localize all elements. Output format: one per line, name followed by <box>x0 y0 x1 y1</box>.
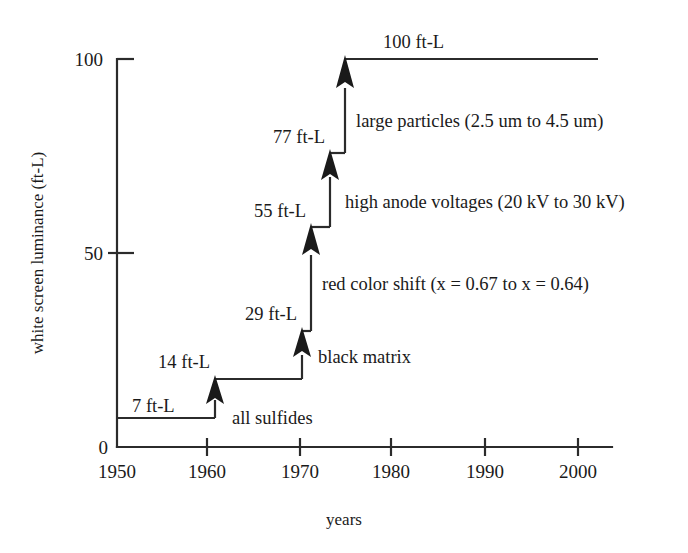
step-value-label-77: 77 ft-L <box>273 127 325 147</box>
x-tick-label-1970: 1970 <box>281 461 319 482</box>
step-value-label-29: 29 ft-L <box>245 304 297 324</box>
y-tick-label-0: 0 <box>99 437 109 458</box>
chart-figure: 100 50 0 1950 1960 1970 1980 1990 2000 <box>0 0 688 553</box>
step-value-label-55: 55 ft-L <box>254 201 306 221</box>
annotation-black-matrix: black matrix <box>318 347 412 367</box>
step-chart-svg: 100 50 0 1950 1960 1970 1980 1990 2000 <box>0 0 688 553</box>
annotation-red-color-shift: red color shift (x = 0.67 to x = 0.64) <box>322 274 589 295</box>
annotation-all-sulfides: all sulfides <box>232 408 313 428</box>
x-axis-title: years <box>326 510 362 529</box>
annotation-high-anode-voltages: high anode voltages (20 kV to 30 kV) <box>345 192 625 213</box>
step-value-label-14: 14 ft-L <box>158 352 210 372</box>
x-tick-label-2000: 2000 <box>559 461 597 482</box>
y-tick-label-50: 50 <box>84 243 103 264</box>
annotation-large-particles: large particles (2.5 um to 4.5 um) <box>356 111 603 132</box>
x-tick-label-1960: 1960 <box>188 461 226 482</box>
x-tick-label-1950: 1950 <box>98 461 136 482</box>
step-value-label-100: 100 ft-L <box>383 32 444 52</box>
x-tick-label-1980: 1980 <box>372 461 410 482</box>
y-tick-label-100: 100 <box>75 49 104 70</box>
step-value-label-7: 7 ft-L <box>132 396 175 416</box>
x-tick-label-1990: 1990 <box>466 461 504 482</box>
y-axis-title: white screen luminance (ft-L) <box>28 152 47 355</box>
